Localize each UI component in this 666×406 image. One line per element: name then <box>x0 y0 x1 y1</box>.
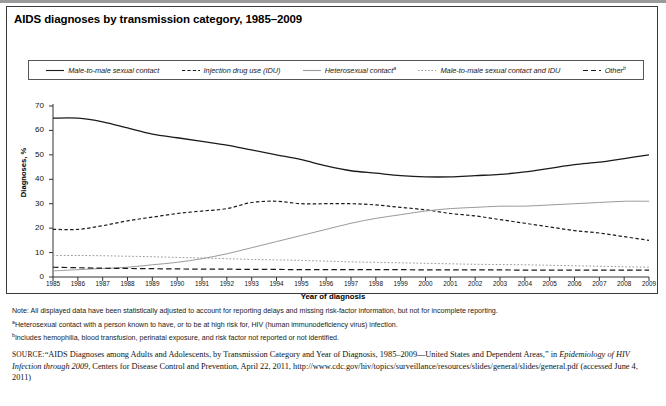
figure-source: SOURCE:“AIDS Diagnoses among Adults and … <box>12 349 658 384</box>
legend-label: Otherb <box>605 65 626 75</box>
legend-item-male-to-male-sexual-contact[interactable]: Male-to-male sexual contact <box>46 66 159 75</box>
legend-swatch-solid-icon <box>46 67 64 74</box>
source-part2: , Centers for Disease Control and Preven… <box>12 362 638 383</box>
legend-item-injection-drug-use[interactable]: Injection drug use (IDU) <box>182 66 281 75</box>
top-divider <box>0 0 666 3</box>
legend-footnote-marker: b <box>623 65 626 71</box>
page-title: AIDS diagnoses by transmission category,… <box>14 13 302 25</box>
legend-label: Heterosexual contacta <box>325 65 396 75</box>
legend-swatch-dashed-icon <box>182 67 200 74</box>
legend-footnote-marker: a <box>393 65 396 71</box>
figure-notes: Note: All displayed data have been stati… <box>12 306 658 344</box>
legend-swatch-longdash-icon <box>583 67 601 74</box>
legend-item-male-to-male-sexual-contact-and-idu[interactable]: Male-to-male sexual contact and IDU <box>418 66 560 75</box>
footnote-b: bIncludes hemophilia, blood transfusion,… <box>12 330 658 344</box>
legend-label: Injection drug use (IDU) <box>204 66 281 75</box>
source-label: SOURCE: <box>12 350 45 359</box>
legend-item-other[interactable]: Otherb <box>583 65 626 75</box>
legend-label: Male-to-male sexual contact <box>68 66 159 75</box>
legend-swatch-solid-light-icon <box>303 67 321 74</box>
figure-page: AIDS diagnoses by transmission category,… <box>0 0 666 406</box>
source-part1: “AIDS Diagnoses among Adults and Adolesc… <box>45 350 560 359</box>
legend-item-heterosexual-contact[interactable]: Heterosexual contacta <box>303 65 396 75</box>
figure-frame <box>6 6 658 294</box>
legend-swatch-dotted-icon <box>418 67 436 74</box>
legend-label: Male-to-male sexual contact and IDU <box>440 66 560 75</box>
footnote-a: aHeterosexual contact with a person know… <box>12 317 658 331</box>
chart-legend: Male-to-male sexual contact Injection dr… <box>28 60 644 80</box>
note-line: Note: All displayed data have been stati… <box>12 306 658 317</box>
